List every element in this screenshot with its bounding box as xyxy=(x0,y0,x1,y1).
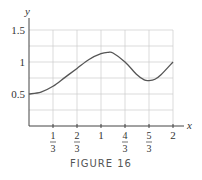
x-axis-label: x xyxy=(186,119,192,131)
x-tick-label: 1 xyxy=(51,130,56,141)
y-axis-label: y xyxy=(24,5,30,17)
x-tick-label: 3 xyxy=(51,143,56,154)
x-tick-label: 3 xyxy=(75,143,80,154)
figure-caption: FIGURE 16 xyxy=(0,158,202,169)
x-tick-label: 2 xyxy=(170,129,176,141)
x-tick-label: 2 xyxy=(75,130,80,141)
y-tick-label: 1.5 xyxy=(11,24,25,36)
x-tick-label: 5 xyxy=(147,130,152,141)
x-tick-label: 3 xyxy=(123,143,128,154)
x-tick-label: 1 xyxy=(98,129,104,141)
line-chart: xy1.510.51323143532 xyxy=(0,0,202,180)
y-tick-label: 1 xyxy=(20,56,26,68)
x-tick-label: 4 xyxy=(123,130,128,141)
figure: xy1.510.51323143532 FIGURE 16 xyxy=(0,0,202,180)
x-tick-label: 3 xyxy=(147,143,152,154)
y-tick-label: 0.5 xyxy=(11,88,25,100)
